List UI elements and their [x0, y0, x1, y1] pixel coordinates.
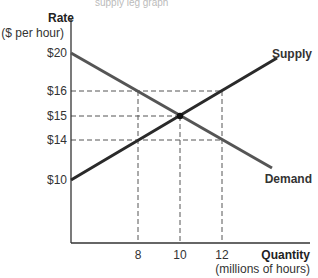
y-tick-15: $15: [47, 109, 67, 123]
equilibrium-point: [177, 113, 183, 119]
x-tick-12: 12: [215, 248, 229, 262]
demand-curve: [71, 53, 272, 168]
y-tick-20: $20: [47, 46, 67, 60]
cut-off-text: supply leg graph: [95, 0, 168, 8]
x-axis-sublabel: (millions of hours): [215, 262, 310, 276]
supply-curve: [71, 58, 277, 180]
y-tick-14: $14: [47, 133, 67, 147]
demand-label: Demand: [265, 172, 312, 186]
x-tick-10: 10: [173, 248, 187, 262]
x-tick-8: 8: [135, 248, 142, 262]
y-axis-sublabel: ($ per hour): [1, 26, 64, 40]
supply-label: Supply: [272, 47, 312, 61]
y-tick-10: $10: [47, 173, 67, 187]
x-axis-label: Quantity: [261, 248, 310, 262]
supply-demand-chart: supply leg graph Rate ($ per hour) $20 $…: [0, 0, 318, 278]
y-tick-16: $16: [47, 84, 67, 98]
